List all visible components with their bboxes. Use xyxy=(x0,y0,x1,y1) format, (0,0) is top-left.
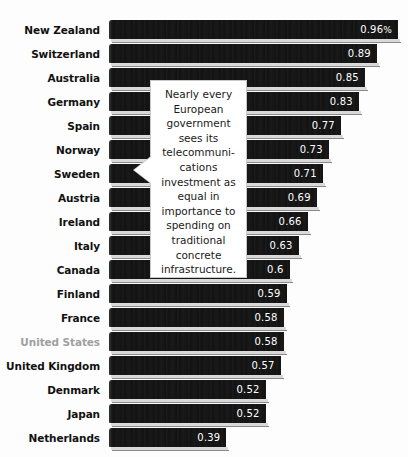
bar: 0.39 xyxy=(109,428,226,451)
bar-value-number: 0.63 xyxy=(270,240,293,251)
category-label-austria: Austria xyxy=(0,188,100,208)
category-label-switzerland: Switzerland xyxy=(0,44,100,64)
bar-value-label: 0.89 xyxy=(348,44,371,63)
bar-row: United Kingdom0.57 xyxy=(0,356,408,380)
bar-value-number: 0.6 xyxy=(267,264,284,275)
callout-text: Nearly every European government sees it… xyxy=(151,81,246,277)
bar-bevel-highlight xyxy=(111,303,289,306)
category-label-italy: Italy xyxy=(0,236,100,256)
bar: 0.57 xyxy=(109,356,281,379)
category-label-australia: Australia xyxy=(0,68,100,88)
bar-shadow xyxy=(112,330,287,331)
bar-body xyxy=(109,44,377,63)
bar: 0.58 xyxy=(109,308,284,331)
bar-shadow xyxy=(112,402,269,403)
bar-row: Switzerland0.89 xyxy=(0,44,408,68)
bar: 0.96% xyxy=(109,20,398,43)
callout-tail-icon xyxy=(134,157,151,183)
bar-value-number: 0.71 xyxy=(294,168,317,179)
bar-bevel-highlight xyxy=(111,351,286,354)
bar-value-label: 0.83 xyxy=(330,92,353,111)
bar-value-label: 0.59 xyxy=(258,284,281,303)
bar-value-number: 0.58 xyxy=(255,336,278,347)
bar-shadow xyxy=(112,66,380,67)
category-label-ireland: Ireland xyxy=(0,212,100,232)
bar-chart: New Zealand0.96%Switzerland0.89Australia… xyxy=(0,0,408,457)
bar-value-label: 0.73 xyxy=(300,140,323,159)
bar-value-label: 0.52 xyxy=(236,380,259,399)
bar-value-label: 0.85 xyxy=(336,68,359,87)
bar: 0.52 xyxy=(109,404,266,427)
bar-value-label: 0.58 xyxy=(255,308,278,327)
bar-value-label: 0.63 xyxy=(270,236,293,255)
category-label-spain: Spain xyxy=(0,116,100,136)
bar-shadow xyxy=(112,42,401,43)
category-label-germany: Germany xyxy=(0,92,100,112)
bar-value-label: 0.6 xyxy=(267,260,284,279)
bar-shadow xyxy=(112,306,290,307)
bar-value-number: 0.52 xyxy=(236,408,259,419)
bar-row: Netherlands0.39 xyxy=(0,428,408,452)
category-label-netherlands: Netherlands xyxy=(0,428,100,448)
bar: 0.89 xyxy=(109,44,377,67)
bar-value-label: 0.66 xyxy=(279,212,302,231)
bar-bevel-highlight xyxy=(111,63,379,66)
bar-shadow xyxy=(112,450,229,451)
bar-value-number: 0.66 xyxy=(279,216,302,227)
bar-value-number: 0.69 xyxy=(288,192,311,203)
bar-bevel-highlight xyxy=(111,447,228,450)
bar: 0.58 xyxy=(109,332,284,355)
bar-shadow xyxy=(112,426,269,427)
bar-value-label: 0.58 xyxy=(255,332,278,351)
category-label-new-zealand: New Zealand xyxy=(0,20,100,40)
bar-value-number: 0.52 xyxy=(236,384,259,395)
bar-bevel-highlight xyxy=(111,375,283,378)
category-label-united-kingdom: United Kingdom xyxy=(0,356,100,376)
bar-value-label: 0.71 xyxy=(294,164,317,183)
category-label-norway: Norway xyxy=(0,140,100,160)
bar-value-number: 0.58 xyxy=(255,312,278,323)
bar: 0.59 xyxy=(109,284,287,307)
bar-value-number: 0.77 xyxy=(312,120,335,131)
bar-row: Finland0.59 xyxy=(0,284,408,308)
category-label-france: France xyxy=(0,308,100,328)
bar-row: Japan0.52 xyxy=(0,404,408,428)
bar-row: New Zealand0.96% xyxy=(0,20,408,44)
bar-value-number: 0.85 xyxy=(336,72,359,83)
bar-bevel-highlight xyxy=(111,39,400,42)
bar-value-number: 0.57 xyxy=(252,360,275,371)
bar-value-label: 0.52 xyxy=(236,404,259,423)
bar-bevel-highlight xyxy=(111,327,286,330)
callout-box: Nearly every European government sees it… xyxy=(150,80,247,278)
bar-value-number: 0.73 xyxy=(300,144,323,155)
bar-value-unit: % xyxy=(383,25,392,35)
bar-row: Denmark0.52 xyxy=(0,380,408,404)
bar-row: United States0.58 xyxy=(0,332,408,356)
bar-shadow xyxy=(112,378,284,379)
bar-value-label: 0.96% xyxy=(360,20,392,39)
category-label-finland: Finland xyxy=(0,284,100,304)
bar-shadow xyxy=(112,282,293,283)
category-label-sweden: Sweden xyxy=(0,164,100,184)
bar-value-number: 0.59 xyxy=(258,288,281,299)
category-label-japan: Japan xyxy=(0,404,100,424)
bar-value-number: 0.83 xyxy=(330,96,353,107)
bar-bevel-highlight xyxy=(111,399,268,402)
bar-value-label: 0.57 xyxy=(252,356,275,375)
bar-value-label: 0.77 xyxy=(312,116,335,135)
bar-row: France0.58 xyxy=(0,308,408,332)
bar-value-number: 0.96 xyxy=(360,24,383,35)
bar-value-number: 0.39 xyxy=(197,432,220,443)
bar-value-number: 0.89 xyxy=(348,48,371,59)
category-label-canada: Canada xyxy=(0,260,100,280)
bar-bevel-highlight xyxy=(111,279,292,282)
bar-bevel-highlight xyxy=(111,423,268,426)
bar: 0.52 xyxy=(109,380,266,403)
bar-body xyxy=(109,20,398,39)
bar-value-label: 0.39 xyxy=(197,428,220,447)
bar-shadow xyxy=(112,354,287,355)
category-label-united-states: United States xyxy=(0,332,100,352)
bar-value-label: 0.69 xyxy=(288,188,311,207)
category-label-denmark: Denmark xyxy=(0,380,100,400)
